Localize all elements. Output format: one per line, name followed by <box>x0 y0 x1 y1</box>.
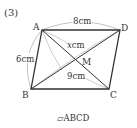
parallelogram-diagram: (3) A D B C M 8cm 6cm xcm 9cm ▱ABCD <box>0 0 137 128</box>
measure-xcm: xcm <box>67 40 85 50</box>
unit-cm: cm <box>72 40 85 50</box>
arc-9cm-dimension <box>42 30 62 70</box>
vertex-label-a: A <box>32 22 40 32</box>
problem-number: (3) <box>4 7 18 18</box>
arc-9cm-dimension-2 <box>85 78 109 89</box>
vertex-label-d: D <box>121 23 128 33</box>
vertex-label-c: C <box>110 90 117 100</box>
measure-ac: 9cm <box>67 71 85 81</box>
midpoint-label-m: M <box>82 57 91 67</box>
figure-caption: ▱ABCD <box>57 113 90 123</box>
vertex-label-b: B <box>22 90 29 100</box>
measure-ab: 6cm <box>16 54 34 64</box>
measure-ad: 8cm <box>73 16 91 26</box>
caption-name: ABCD <box>63 113 90 123</box>
